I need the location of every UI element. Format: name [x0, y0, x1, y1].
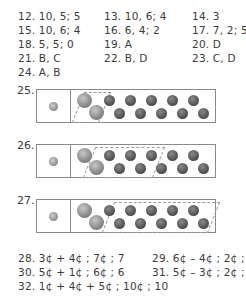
nickel-coin-icon: [77, 203, 92, 218]
penny-coin-icon: [156, 163, 167, 174]
box-divider: [70, 90, 71, 122]
penny-coin-icon: [198, 218, 209, 229]
problem-27-number: 27.: [17, 194, 35, 207]
answer-14: 14. 3: [192, 10, 220, 22]
penny-coin-icon: [135, 218, 146, 229]
box-divider: [70, 200, 71, 232]
penny-coin-icon: [135, 108, 146, 119]
penny-coin-icon: [125, 205, 136, 216]
answer-12: 12. 10, 5; 5: [18, 10, 81, 22]
problem-25-number: 25.: [17, 84, 35, 97]
penny-coin-icon: [167, 95, 178, 106]
penny-coin-icon: [125, 95, 136, 106]
coin-box-25: [36, 89, 216, 123]
penny-coin-icon: [135, 163, 146, 174]
coin-box-27: [36, 199, 216, 233]
penny-coin-icon: [167, 205, 178, 216]
answer-20: 20. D: [192, 38, 221, 50]
penny-coin-icon: [114, 108, 125, 119]
answer-29: 29. 6¢ – 4¢ ; 2¢ ; 2: [152, 252, 246, 264]
problem-26-number: 26.: [17, 139, 35, 152]
answer-21: 21. B, C: [18, 52, 61, 64]
nickel-coin-icon: [77, 93, 92, 108]
penny-coin-icon: [125, 150, 136, 161]
answer-13: 13. 10, 6; 4: [104, 10, 167, 22]
penny-coin-icon: [156, 218, 167, 229]
dime-coin-icon: [49, 212, 58, 221]
nickel-coin-icon: [77, 148, 92, 163]
answer-19: 19. A: [104, 38, 132, 50]
penny-coin-icon: [104, 95, 115, 106]
penny-coin-icon: [146, 205, 157, 216]
answer-24: 24. A, B: [18, 66, 61, 78]
penny-coin-icon: [146, 95, 157, 106]
answer-15: 15. 10, 6; 4: [18, 24, 81, 36]
penny-coin-icon: [146, 150, 157, 161]
nickel-coin-icon: [89, 160, 104, 175]
answer-18: 18. 5, 5; 0: [18, 38, 74, 50]
answer-31: 31. 5¢ – 3¢ ; 2¢ ; 2: [152, 266, 246, 278]
penny-coin-icon: [198, 163, 209, 174]
penny-coin-icon: [188, 95, 199, 106]
penny-coin-icon: [104, 150, 115, 161]
penny-coin-icon: [167, 150, 178, 161]
box-divider: [70, 145, 71, 177]
answer-23: 23. C, D: [192, 52, 236, 64]
answer-28: 28. 3¢ + 4¢ ; 7¢ ; 7: [18, 252, 125, 264]
answer-32: 32. 1¢ + 4¢ + 5¢ ; 10¢ ; 10: [18, 280, 168, 292]
penny-coin-icon: [177, 218, 188, 229]
penny-coin-icon: [177, 108, 188, 119]
penny-coin-icon: [104, 205, 115, 216]
coin-box-26: [36, 144, 216, 178]
answer-16: 16. 6, 4; 2: [104, 24, 160, 36]
penny-coin-icon: [188, 150, 199, 161]
penny-coin-icon: [198, 108, 209, 119]
dime-coin-icon: [49, 102, 58, 111]
answer-30: 30. 5¢ + 1¢ ; 6¢ ; 6: [18, 266, 125, 278]
answer-22: 22. B, D: [104, 52, 148, 64]
answer-17: 17. 7, 2; 5: [192, 24, 246, 36]
nickel-coin-icon: [89, 105, 104, 120]
penny-coin-icon: [114, 163, 125, 174]
penny-coin-icon: [114, 218, 125, 229]
dime-coin-icon: [49, 157, 58, 166]
penny-coin-icon: [188, 205, 199, 216]
nickel-coin-icon: [89, 215, 104, 230]
penny-coin-icon: [156, 108, 167, 119]
penny-coin-icon: [177, 163, 188, 174]
